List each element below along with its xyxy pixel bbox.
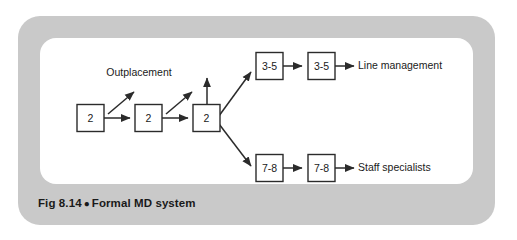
caption-title: Formal MD system xyxy=(92,197,196,209)
figure-caption: Fig 8.14●Formal MD system xyxy=(38,197,196,209)
branch-line-upper xyxy=(216,72,251,120)
outplacement-arrow-1 xyxy=(108,92,134,114)
branch-line-lower xyxy=(216,120,251,166)
outcome-label-staff-specialists: Staff specialists xyxy=(358,161,431,173)
node-lower-1-label: 7-8 xyxy=(262,162,277,174)
node-stage-3-label: 2 xyxy=(204,112,210,124)
caption-number: Fig 8.14 xyxy=(38,197,82,209)
outplacement-label: Outplacement xyxy=(106,66,171,78)
node-upper-2-label: 3-5 xyxy=(314,60,329,72)
node-upper-1-label: 3-5 xyxy=(262,60,277,72)
node-stage-1-label: 2 xyxy=(88,112,94,124)
outplacement-arrow-2 xyxy=(166,92,192,114)
figure-container: 2 2 2 3-5 3-5 7-8 7-8 Line management St… xyxy=(0,0,517,240)
node-lower-2-label: 7-8 xyxy=(314,162,329,174)
outcome-label-line-management: Line management xyxy=(358,59,442,71)
caption-bullet-icon: ● xyxy=(82,198,92,209)
node-stage-2-label: 2 xyxy=(146,112,152,124)
